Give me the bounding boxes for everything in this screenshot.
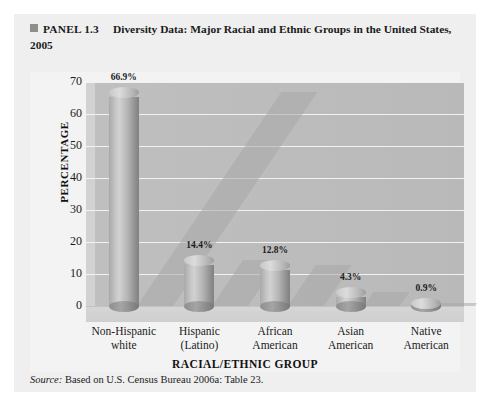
bar-value-label: 66.9% xyxy=(84,72,164,82)
square-bullet-icon xyxy=(30,24,38,32)
x-tick-label-line: American xyxy=(381,338,471,352)
bar-value-label: 14.4% xyxy=(159,240,239,250)
y-tick-label: 50 xyxy=(38,138,82,153)
bar xyxy=(260,265,290,306)
bar xyxy=(336,292,366,306)
gridline xyxy=(86,242,464,243)
x-axis-title: RACIAL/ETHNIC GROUP xyxy=(30,358,460,370)
y-tick-label: 70 xyxy=(38,74,82,89)
bar-body xyxy=(184,265,214,306)
x-tick-label-line: Native xyxy=(381,324,471,338)
bar xyxy=(109,92,139,306)
bar xyxy=(411,303,441,306)
y-tick-label: 10 xyxy=(38,266,82,281)
bar-value-label: 12.8% xyxy=(235,245,315,255)
bar-base-ellipse xyxy=(336,301,366,312)
bar-body xyxy=(109,97,139,306)
chart-area: PERCENTAGE 010203040506070 66.9%14.4%12.… xyxy=(30,72,460,372)
y-tick-label: 60 xyxy=(38,106,82,121)
x-tick-label: NativeAmerican xyxy=(381,324,471,352)
source-text: Based on U.S. Census Bureau 2006a: Table… xyxy=(62,374,263,385)
bar-base-ellipse xyxy=(260,301,290,312)
y-axis-ticks: 010203040506070 xyxy=(30,82,82,306)
bar-top-ellipse xyxy=(184,255,214,266)
y-tick-label: 40 xyxy=(38,170,82,185)
bar xyxy=(184,260,214,306)
bar-value-label: 4.3% xyxy=(311,272,391,282)
bar-shadow xyxy=(439,303,477,306)
y-tick-label: 20 xyxy=(38,234,82,249)
gridline xyxy=(86,82,464,83)
y-tick-label: 0 xyxy=(38,298,82,313)
figure-caption: PANEL 1.3Diversity Data: Major Racial an… xyxy=(30,22,460,53)
gridline xyxy=(86,178,464,179)
panel-number: PANEL 1.3 xyxy=(43,23,99,35)
bar-value-label: 0.9% xyxy=(386,283,466,293)
bar-base-ellipse xyxy=(109,301,139,312)
y-tick-label: 30 xyxy=(38,202,82,217)
x-axis-categories: Non-HispanicwhiteHispanic(Latino)African… xyxy=(86,324,464,358)
source-prefix: Source: xyxy=(30,374,62,385)
source-note: Source: Based on U.S. Census Bureau 2006… xyxy=(30,374,450,385)
figure-panel: PANEL 1.3Diversity Data: Major Racial an… xyxy=(14,14,476,392)
bar-top-ellipse xyxy=(260,260,290,271)
gridline xyxy=(86,210,464,211)
bar-top-ellipse xyxy=(109,87,139,98)
